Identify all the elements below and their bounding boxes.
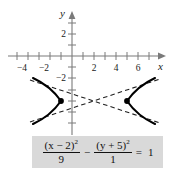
x-tick-label-neg4: −4	[17, 63, 27, 73]
hyperbola-equation: (x − 2)2 9 − (y + 5)2 1 = 1	[42, 140, 154, 165]
equation-box: (x − 2)2 9 − (y + 5)2 1 = 1	[32, 136, 163, 168]
y-tick-label-2: 2	[61, 29, 66, 39]
y-axis	[69, 11, 76, 135]
equals-sign: =	[136, 147, 142, 158]
y-numerator-text: (y + 5)	[96, 139, 126, 151]
x-axis	[8, 53, 166, 60]
x-tick-label-neg2: −2	[39, 63, 49, 73]
x-tick-label-2: 2	[92, 63, 97, 73]
fraction-y-numerator: (y + 5)2	[94, 140, 132, 152]
fraction-x-denominator: 9	[57, 153, 67, 165]
y-axis-label: y	[59, 7, 65, 19]
fraction-y-term: (y + 5)2 1	[94, 140, 132, 165]
x-tick-label-6: 6	[136, 63, 141, 73]
fraction-y-denominator: 1	[108, 153, 118, 165]
vertex-left-dot	[58, 98, 64, 104]
x-numerator-text: (x − 2)	[45, 139, 75, 151]
x-axis-label: x	[157, 60, 163, 72]
graph-canvas: x y −4 −2 2 4 6 2 −2	[0, 0, 171, 137]
hyperbola-branches	[33, 78, 155, 124]
x-numerator-exponent: 2	[75, 138, 79, 146]
hyperbola-figure: x y −4 −2 2 4 6 2 −2	[0, 0, 171, 173]
fraction-x-numerator: (x − 2)2	[43, 140, 81, 152]
equation-rhs: 1	[148, 147, 154, 158]
fraction-x-term: (x − 2)2 9	[43, 140, 81, 165]
minus-operator: −	[84, 147, 90, 158]
x-tick-label-4: 4	[114, 63, 119, 73]
y-numerator-exponent: 2	[126, 138, 130, 146]
left-branch	[33, 78, 61, 124]
y-tick-label-neg2: −2	[56, 73, 66, 83]
vertex-right-dot	[124, 98, 130, 104]
